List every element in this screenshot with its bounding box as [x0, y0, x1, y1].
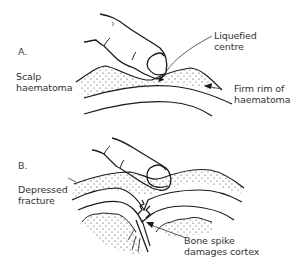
scalp-haematoma-label-line2: haematoma [16, 82, 72, 93]
panel-b-letter: B. [18, 160, 28, 171]
fingernail-a [147, 56, 164, 75]
firm-rim-label-line2: haematoma [234, 94, 290, 105]
scalp-haematoma-label-line1: Scalp [16, 71, 41, 82]
liquefied-centre-label-line1: Liquefied [214, 30, 257, 41]
panel-a-illustration [76, 14, 232, 116]
bone-spike-label-line2: damages cortex [184, 246, 259, 257]
depressed-fracture-label-line2: fracture [18, 195, 55, 206]
panel-a-letter: A. [18, 46, 27, 57]
liquefied-centre-label-line2: centre [214, 41, 244, 52]
bone-spike-label-line1: Bone spike [184, 235, 235, 246]
firm-rim-label-line1: Firm rim of [234, 83, 284, 94]
diagram-canvas: A. Scalp haematoma Liquefied centre Firm… [0, 0, 298, 264]
depressed-fracture-label-line1: Depressed [18, 184, 68, 195]
